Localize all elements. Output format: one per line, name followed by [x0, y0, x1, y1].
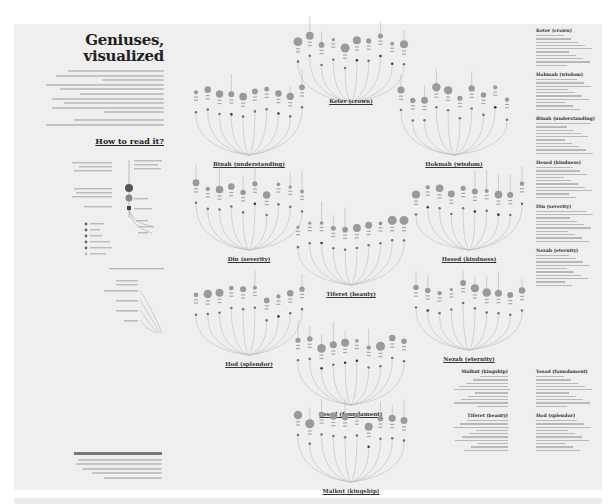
- list-item: [536, 99, 589, 100]
- list-item: [536, 193, 569, 194]
- nezah-arc-diagram: [404, 264, 534, 359]
- list-item: [536, 58, 583, 59]
- infographic-panel: Geniuses, visualized How to read it?: [14, 24, 602, 490]
- list-item: [536, 423, 584, 424]
- list-item: [467, 420, 508, 421]
- list-item: [536, 281, 565, 282]
- list-item: [536, 82, 584, 83]
- list-item: [536, 42, 578, 43]
- text-line-placeholder: [92, 472, 162, 474]
- list-item: [536, 153, 593, 154]
- chart-binah: Binah (understanding): [184, 69, 314, 169]
- chart-label-malkut: Malkut (kingship): [286, 488, 416, 494]
- list-item: [536, 174, 587, 175]
- text-line-placeholder: [102, 79, 164, 81]
- list-title: Malkut (kingship): [454, 369, 508, 374]
- list-item: [536, 61, 590, 62]
- list-item: [536, 278, 588, 279]
- list-item: [536, 275, 581, 276]
- list-item: [536, 35, 564, 36]
- chart-hesed: Hesed (kindness): [404, 164, 534, 264]
- list-title: Binah (understanding): [536, 116, 598, 121]
- text-line-placeholder: [82, 468, 162, 470]
- list-bottom-right: Yesod (foundament)Hod (splendor): [536, 369, 598, 457]
- list-item: [536, 197, 576, 198]
- list-item: [536, 261, 583, 262]
- list-item: [536, 136, 588, 137]
- list-item: [536, 143, 572, 144]
- list-item: [454, 389, 510, 390]
- list-item: [536, 443, 566, 444]
- page-title-line2: visualized: [34, 48, 164, 64]
- list-item: [464, 450, 508, 451]
- text-line-placeholder: [68, 70, 164, 72]
- intro-block: Geniuses, visualized: [34, 32, 164, 129]
- list-item: [536, 48, 592, 49]
- text-line-placeholder: [78, 459, 162, 461]
- list-item: [478, 443, 508, 444]
- list-item: [454, 427, 509, 428]
- list-item: [536, 440, 589, 441]
- list-item: [454, 402, 508, 403]
- list-item: [455, 440, 508, 441]
- list-item: [536, 227, 591, 228]
- list-item: [536, 217, 570, 218]
- list-item: [536, 102, 566, 103]
- list-item: [536, 92, 575, 93]
- list-item: [536, 436, 582, 437]
- list-item: [536, 45, 585, 46]
- list-item: [462, 436, 508, 437]
- intro-description: [34, 70, 164, 113]
- list-item: [536, 234, 575, 235]
- list-item: [536, 126, 567, 127]
- list-item: [536, 231, 568, 232]
- intro-source: [34, 119, 164, 126]
- list-item: [536, 221, 577, 222]
- list-item: [536, 105, 573, 106]
- list-item: [536, 224, 584, 225]
- list-item: [480, 376, 508, 377]
- list-item: [461, 399, 508, 400]
- binah-arc-diagram: [184, 69, 314, 164]
- list-item: [536, 65, 567, 66]
- text-line-placeholder: [52, 98, 164, 100]
- text-line-placeholder: [104, 477, 162, 479]
- list-item: [536, 386, 585, 387]
- list-title: Tiferet (beauty): [454, 413, 508, 418]
- list-item: [536, 237, 582, 238]
- list-item: [536, 187, 585, 188]
- malkut-arc-diagram: [286, 396, 416, 491]
- list-item: [536, 38, 571, 39]
- page-title-line1: Geniuses,: [34, 32, 164, 48]
- list-item: [536, 427, 591, 428]
- list-item: [536, 430, 568, 431]
- chart-malkut: Malkut (kingship): [286, 396, 416, 496]
- text-line-placeholder: [46, 84, 164, 86]
- list-item: [536, 258, 576, 259]
- list-item: [536, 180, 571, 181]
- list-item: [536, 268, 567, 269]
- list-item: [536, 285, 572, 286]
- list-item: [536, 95, 582, 96]
- list-item: [536, 383, 578, 384]
- list-bottom-left: Malkut (kingship)Tiferet (beauty): [454, 369, 508, 457]
- list-item: [536, 396, 576, 397]
- list-item: [536, 420, 577, 421]
- list-item: [477, 406, 508, 407]
- list-item: [466, 383, 508, 384]
- list-title: Keter (crown): [536, 28, 598, 33]
- chart-hokmah: Hokmah (wisdom): [389, 69, 519, 169]
- list-item: [536, 146, 579, 147]
- text-line-placeholder: [80, 93, 164, 95]
- list-title: Nezah (eternity): [536, 248, 598, 253]
- credit-divider: [74, 452, 162, 455]
- list-item: [475, 392, 508, 393]
- next-panel-strip: [14, 498, 602, 504]
- list-item: [536, 149, 586, 150]
- list-item: [536, 402, 590, 403]
- chart-label-nezah: Nezah (eternity): [404, 356, 534, 362]
- legend-diagram: [34, 148, 164, 338]
- list-item: [468, 396, 508, 397]
- list-item: [536, 183, 578, 184]
- list-item: [536, 123, 590, 124]
